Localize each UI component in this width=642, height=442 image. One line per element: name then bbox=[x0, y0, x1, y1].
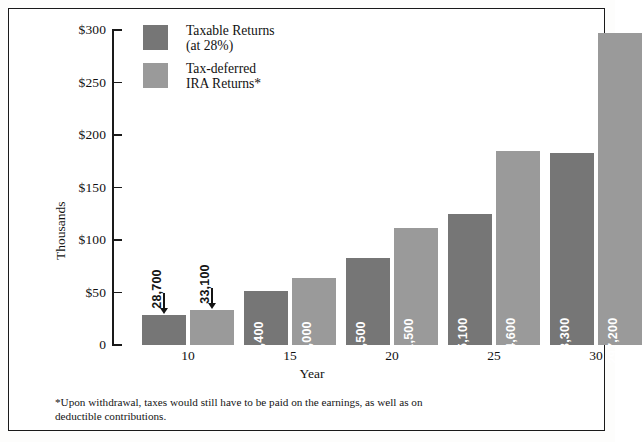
x-axis-tick-label-15: 15 bbox=[270, 348, 310, 364]
y-axis-tick-label: $50 bbox=[36, 285, 106, 301]
bar-value-label: 183,300 bbox=[558, 318, 572, 365]
legend-swatch-taxable bbox=[143, 25, 168, 50]
y-axis-tick bbox=[113, 134, 122, 136]
y-axis-tick-label: $300 bbox=[36, 22, 106, 38]
y-axis-title: Thousands bbox=[38, 168, 54, 258]
footnote: *Upon withdrawal, taxes would still have… bbox=[55, 396, 525, 423]
x-axis-tick-label-10: 10 bbox=[168, 348, 208, 364]
y-axis-tick-label: $200 bbox=[36, 127, 106, 143]
y-axis-tick bbox=[113, 82, 122, 84]
legend-label-ira: Tax-deferredIRA Returns* bbox=[186, 62, 261, 91]
bar-b3: 51,400 bbox=[244, 291, 288, 345]
y-axis-tick-label-text: 0 bbox=[42, 337, 106, 353]
footnote-line-2: deductible contributions. bbox=[55, 410, 525, 424]
y-axis-tick-label-text: $250 bbox=[42, 75, 106, 91]
legend-label-line-1: Taxable Returns bbox=[186, 23, 275, 38]
y-axis-title-text: Thousands bbox=[53, 202, 69, 261]
legend-label-line-1: Tax-deferred bbox=[186, 61, 256, 76]
y-axis-tick-label-text: $300 bbox=[42, 22, 106, 38]
y-axis-tick bbox=[113, 344, 122, 346]
bar-value-label: 28,700 bbox=[150, 269, 164, 308]
legend-label-line-2: IRA Returns* bbox=[186, 77, 261, 92]
x-axis-tick-label-20: 20 bbox=[372, 348, 412, 364]
bar-b8: 184,600 bbox=[496, 151, 540, 345]
legend-label-line-2: (at 28%) bbox=[186, 39, 275, 54]
x-axis-tick-label-30: 30 bbox=[576, 348, 616, 364]
bar-b1 bbox=[142, 315, 186, 345]
x-axis-tick-label-25: 25 bbox=[474, 348, 514, 364]
bar-b4: 64,000 bbox=[292, 278, 336, 345]
bar-value-label: 82,500 bbox=[354, 321, 368, 360]
bar-value-label: 125,100 bbox=[456, 318, 470, 365]
y-axis-tick-label: $250 bbox=[36, 75, 106, 91]
footnote-line-1: *Upon withdrawal, taxes would still have… bbox=[55, 396, 525, 410]
legend-label-taxable: Taxable Returns(at 28%) bbox=[186, 24, 275, 53]
bar-b7: 125,100 bbox=[448, 214, 492, 345]
bar-b6: 111,500 bbox=[394, 228, 438, 345]
y-axis-tick bbox=[113, 29, 122, 31]
x-axis-title: Year bbox=[272, 366, 352, 382]
y-axis-tick bbox=[113, 292, 122, 294]
bar-b9: 183,300 bbox=[550, 153, 594, 345]
y-axis-tick bbox=[113, 187, 122, 189]
bar-value-label: 51,400 bbox=[252, 321, 266, 360]
bar-b2 bbox=[190, 310, 234, 345]
y-axis-tick-label-text: $200 bbox=[42, 127, 106, 143]
y-axis-tick-label-text: $50 bbox=[42, 285, 106, 301]
chart-legend: Taxable Returns(at 28%)Tax-deferredIRA R… bbox=[143, 24, 275, 100]
bar-value-label: 33,100 bbox=[198, 265, 212, 304]
y-axis-tick bbox=[113, 239, 122, 241]
y-axis-tick-label: 0 bbox=[36, 337, 106, 353]
bar-b10: 297,200 bbox=[598, 33, 642, 345]
legend-item-ira: Tax-deferredIRA Returns* bbox=[143, 62, 275, 91]
legend-swatch-ira bbox=[143, 63, 168, 88]
legend-item-taxable: Taxable Returns(at 28%) bbox=[143, 24, 275, 53]
bar-b5: 82,500 bbox=[346, 258, 390, 345]
